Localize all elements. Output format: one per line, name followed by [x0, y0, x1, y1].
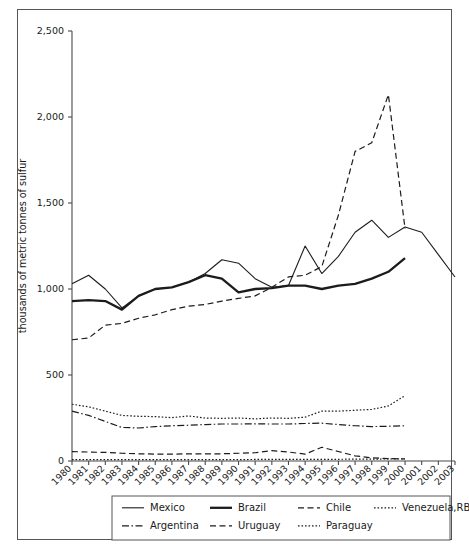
series-line-paraguay	[72, 459, 405, 460]
legend-label: Argentina	[150, 520, 199, 531]
y-tick-label: 500	[46, 369, 64, 380]
line-chart: 05001,0001,5002,0002,500thousands of met…	[0, 0, 469, 549]
y-tick-label: 2,500	[37, 25, 64, 36]
y-tick-label: 1,500	[37, 197, 64, 208]
series-line-brazil	[72, 258, 405, 310]
series-line-uruguay	[72, 447, 405, 459]
y-axis-title: thousands of metric tonnes of sulfur	[17, 159, 28, 333]
legend-label: Paraguay	[326, 520, 373, 531]
series-line-argentina	[72, 411, 405, 428]
legend-label: Uruguay	[238, 520, 281, 531]
series-line-chile	[72, 95, 405, 340]
legend-label: Mexico	[150, 502, 185, 513]
series-line-venezuela-rb	[72, 396, 405, 419]
legend-label: Brazil	[238, 502, 266, 513]
figure-container: 05001,0001,5002,0002,500thousands of met…	[0, 0, 469, 549]
legend-label: Venezuela,RB	[402, 502, 469, 513]
y-tick-label: 1,000	[37, 283, 64, 294]
legend-label: Chile	[326, 502, 351, 513]
y-tick-label: 2,000	[37, 111, 64, 122]
